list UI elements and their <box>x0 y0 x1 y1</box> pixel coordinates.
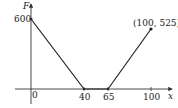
data-point-40-0 <box>83 88 85 90</box>
x-tick-label-100: 100 <box>143 92 160 102</box>
data-point-65-0 <box>107 88 109 90</box>
x-axis-label: x <box>168 91 173 101</box>
y-tick-label-600: 600 <box>14 14 31 24</box>
x-tick-label-0: 0 <box>32 90 38 100</box>
y-axis-label: F <box>22 1 30 11</box>
chart: F x 600 0 40 65 100 (100, 525) <box>0 0 178 108</box>
x-tick-label-40: 40 <box>79 92 91 102</box>
data-point-0-600 <box>30 18 32 20</box>
data-line <box>31 19 151 89</box>
point-annotation: (100, 525) <box>133 18 178 28</box>
x-tick-label-65: 65 <box>103 92 115 102</box>
